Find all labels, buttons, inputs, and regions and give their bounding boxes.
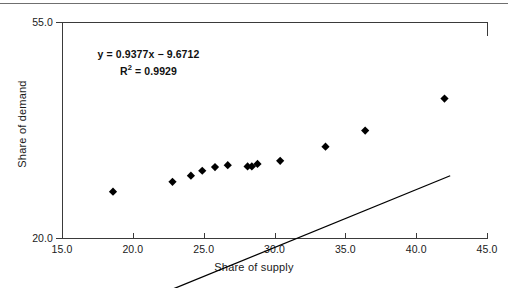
data-point-marker bbox=[440, 94, 448, 102]
data-plot-layer bbox=[0, 0, 508, 288]
trendline bbox=[109, 176, 450, 288]
data-point-marker bbox=[361, 127, 369, 135]
data-point-marker bbox=[187, 172, 195, 180]
data-point-marker bbox=[211, 163, 219, 171]
data-point-marker bbox=[276, 157, 284, 165]
data-point-marker bbox=[224, 161, 232, 169]
data-point-marker bbox=[198, 167, 206, 175]
chart-figure: 15.020.025.030.035.040.045.0 20.055.0 Sh… bbox=[0, 0, 508, 288]
data-point-marker bbox=[168, 178, 176, 186]
data-point-marker bbox=[109, 188, 117, 196]
data-point-marker bbox=[321, 143, 329, 151]
